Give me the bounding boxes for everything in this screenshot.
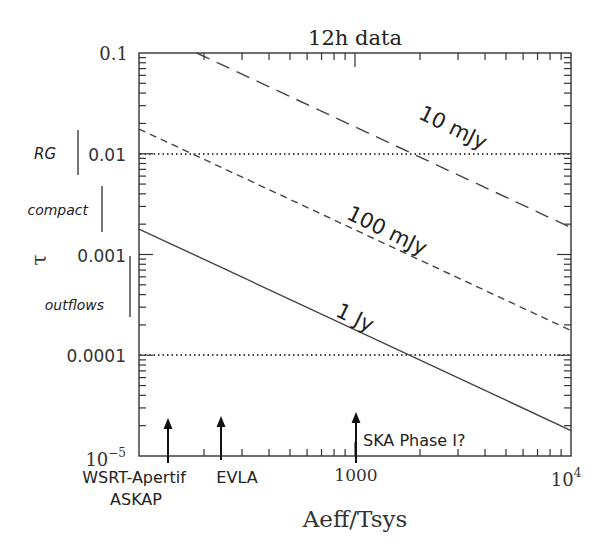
label-askap: ASKAP bbox=[110, 490, 162, 509]
x-axis-label: Aeff/Tsys bbox=[302, 506, 408, 532]
y-tick-1e-5-base: 10 bbox=[85, 449, 108, 470]
x-tick-1000: 1000 bbox=[334, 465, 377, 485]
label-ska-phase1: SKA Phase I? bbox=[363, 431, 465, 450]
y-tick-0.0001: 0.0001 bbox=[67, 346, 126, 366]
plot-frame bbox=[139, 53, 571, 456]
series-label-10mjy: 10 mJy bbox=[415, 101, 491, 154]
series-label-100mjy: 100 mJy bbox=[343, 201, 431, 260]
region-label-compact: compact bbox=[27, 202, 88, 218]
x-tick-1e4-exp: 4 bbox=[574, 466, 582, 480]
region-label-outflows: outflows bbox=[45, 297, 104, 313]
y-tick-0.1: 0.1 bbox=[99, 43, 128, 64]
y-tick-1e-5: 10−5 bbox=[85, 446, 126, 470]
arrow-head-icon bbox=[217, 416, 226, 427]
y-tick-0.01: 0.01 bbox=[88, 145, 126, 165]
arrow-head-icon bbox=[164, 418, 173, 429]
arrow-evla bbox=[217, 416, 226, 460]
chart-figure: 12h data 0.1 0.01 0.001 0.0001 10−5 1000… bbox=[0, 0, 615, 556]
x-tick-1e4-base: 10 bbox=[551, 469, 574, 490]
y-axis-label: τ bbox=[27, 254, 51, 265]
label-wsrt-apertif: WSRT-Apertif bbox=[82, 468, 186, 487]
y-tick-labels: 0.1 0.01 0.001 0.0001 10−5 bbox=[67, 43, 128, 470]
y-tick-1e-5-exp: −5 bbox=[108, 446, 126, 460]
arrow-head-icon bbox=[352, 412, 361, 423]
y-tick-0.001: 0.001 bbox=[77, 246, 126, 266]
series-label-1jy: 1 Jy bbox=[332, 298, 377, 337]
series-lines bbox=[139, 53, 571, 431]
axis-ticks bbox=[139, 53, 571, 456]
label-evla: EVLA bbox=[216, 468, 257, 487]
x-tick-1e4: 104 bbox=[551, 466, 582, 490]
series-line-100mjy bbox=[139, 129, 571, 330]
chart-title: 12h data bbox=[308, 26, 402, 50]
series-line-10mjy bbox=[197, 53, 571, 228]
region-label-rg: RG bbox=[34, 145, 56, 163]
